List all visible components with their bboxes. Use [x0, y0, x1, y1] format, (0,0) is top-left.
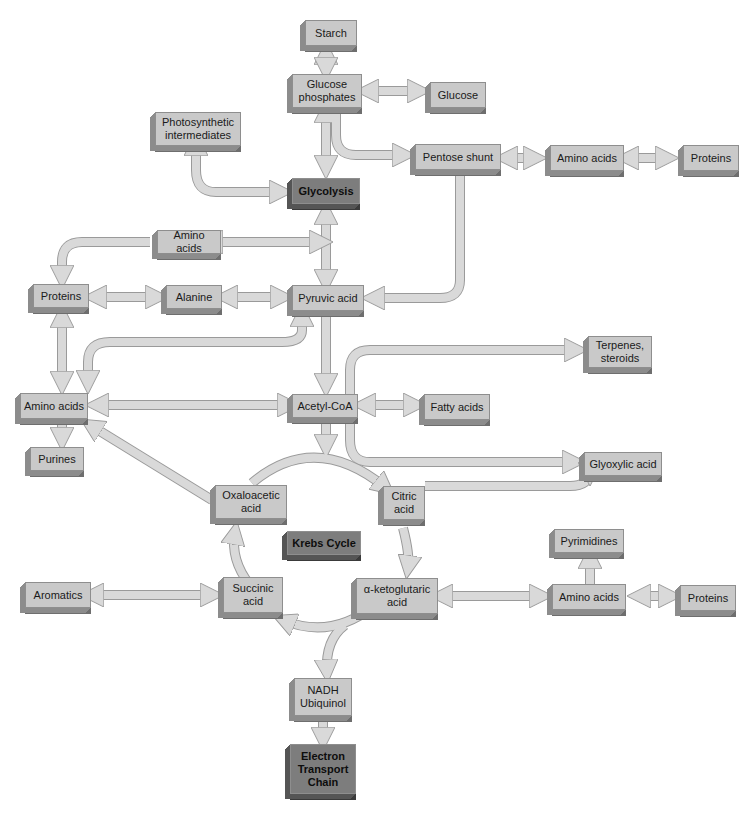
node-succinic-acid: Succinic acid — [223, 577, 283, 613]
node-glycolysis: Glycolysis — [292, 178, 360, 204]
node-label: Terpenes, steroids — [596, 339, 644, 365]
node-label: Amino acids — [161, 229, 217, 255]
node-aromatics: Aromatics — [25, 582, 91, 608]
node-label: Photosynthetic intermediates — [162, 116, 234, 142]
node-citric-acid: Citric acid — [383, 486, 425, 520]
node-label: NADH Ubiquinol — [300, 684, 346, 710]
node-oxaloacetic-acid: Oxaloacetic acid — [215, 485, 287, 519]
node-label: Electron Transport Chain — [298, 750, 349, 789]
node-label: Proteins — [41, 290, 81, 303]
node-label: Amino acids — [559, 591, 619, 604]
node-proteins-top: Proteins — [683, 145, 739, 171]
node-label: Succinic acid — [233, 582, 274, 608]
node-label: Amino acids — [24, 400, 84, 413]
node-purines: Purines — [30, 447, 84, 471]
node-proteins-left: Proteins — [33, 284, 89, 308]
node-label: Starch — [315, 27, 347, 40]
node-label: Glycolysis — [298, 185, 353, 198]
node-amino-acids-mid: Amino acids — [157, 230, 221, 254]
node-label: Purines — [38, 453, 75, 466]
node-fatty-acids: Fatty acids — [424, 394, 490, 420]
node-amino-acids-right: Amino acids — [552, 584, 626, 610]
node-pyruvic-acid: Pyruvic acid — [292, 285, 364, 311]
node-photosynthetic-intermediates: Photosynthetic intermediates — [155, 112, 241, 146]
node-amino-acids-top: Amino acids — [550, 145, 624, 171]
node-pentose-shunt: Pentose shunt — [415, 144, 501, 170]
node-label: Glyoxylic acid — [589, 458, 656, 471]
node-starch: Starch — [305, 20, 357, 46]
node-alpha-ketoglutaric-acid: α-ketoglutaric acid — [356, 578, 438, 614]
pathway-arrows — [0, 0, 756, 821]
node-label: Pyrimidines — [561, 535, 618, 548]
node-label: Alanine — [176, 291, 213, 304]
node-alanine: Alanine — [166, 285, 222, 309]
node-electron-transport-chain: Electron Transport Chain — [290, 744, 356, 794]
node-amino-acids-left: Amino acids — [20, 393, 88, 419]
node-label: α-ketoglutaric acid — [364, 583, 430, 609]
node-label: Citric acid — [391, 490, 416, 516]
node-pyrimidines: Pyrimidines — [554, 529, 624, 553]
node-label: Krebs Cycle — [292, 537, 356, 550]
node-terpenes-steroids: Terpenes, steroids — [588, 336, 652, 368]
node-glucose: Glucose — [430, 82, 486, 108]
node-label: Proteins — [688, 592, 728, 605]
node-nadh-ubiquinol: NADH Ubiquinol — [294, 678, 352, 716]
node-label: Pyruvic acid — [298, 292, 357, 305]
node-krebs-cycle: Krebs Cycle — [287, 531, 361, 555]
node-glyoxylic-acid: Glyoxylic acid — [584, 452, 662, 476]
node-glucose-phosphates: Glucose phosphates — [292, 74, 362, 108]
node-label: Pentose shunt — [423, 151, 493, 164]
node-label: Glucose — [438, 89, 478, 102]
node-label: Glucose phosphates — [299, 78, 356, 104]
node-label: Acetyl-CoA — [297, 400, 352, 413]
node-label: Oxaloacetic acid — [222, 489, 279, 515]
node-label: Fatty acids — [430, 401, 483, 414]
node-label: Proteins — [691, 152, 731, 165]
node-label: Amino acids — [557, 152, 617, 165]
node-label: Aromatics — [34, 589, 83, 602]
node-acetyl-coa: Acetyl-CoA — [292, 394, 358, 418]
node-proteins-right: Proteins — [680, 585, 736, 611]
